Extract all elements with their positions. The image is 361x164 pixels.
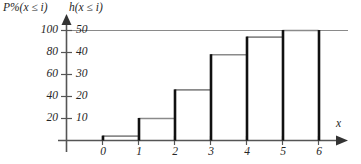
y-label-right-20: 20: [76, 90, 88, 102]
y-label-left-20: 20: [22, 112, 58, 124]
y-label-left-40: 40: [22, 90, 58, 102]
y-axis-left-title: P%(x ≤ i): [3, 2, 48, 14]
x-label-5: 5: [275, 146, 291, 158]
y-label-right-30: 30: [76, 68, 88, 80]
y-label-right-40: 40: [76, 46, 88, 58]
x-label-4: 4: [239, 146, 255, 158]
x-axis-arrow: [336, 136, 348, 146]
x-label-2: 2: [167, 146, 183, 158]
step-risers: [103, 30, 319, 141]
x-label-1: 1: [131, 146, 147, 158]
y-axis-right-title-text: h(x ≤ i): [69, 1, 103, 13]
y-axis-right-title: h(x ≤ i): [69, 2, 103, 14]
y-axis-arrow: [62, 14, 72, 25]
cumulative-step-histogram-figure: P%(x ≤ i) h(x ≤ i) 100 80 60 40 20 50 40…: [0, 0, 361, 164]
x-label-0: 0: [95, 146, 111, 158]
y-label-right-10: 10: [76, 112, 88, 124]
x-label-3: 3: [203, 146, 219, 158]
y-label-left-60: 60: [22, 68, 58, 80]
y-axis-left-title-text: P%(x ≤ i): [3, 1, 48, 13]
x-axis-title: x: [336, 118, 341, 130]
y-label-right-50: 50: [76, 24, 88, 36]
y-label-left-80: 80: [22, 46, 58, 58]
x-label-6: 6: [311, 146, 327, 158]
y-label-left-100: 100: [22, 24, 58, 36]
